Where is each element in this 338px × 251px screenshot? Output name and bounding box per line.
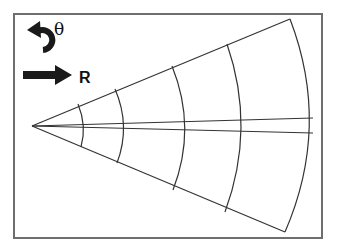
sector-top-edge bbox=[32, 19, 290, 126]
r-label: R bbox=[79, 69, 91, 86]
sector-bottom-edge bbox=[32, 126, 285, 232]
polar-sector-diagram: θ R bbox=[0, 0, 338, 251]
arc-1 bbox=[78, 104, 83, 147]
arc-3 bbox=[172, 66, 185, 190]
radial-arrow-icon bbox=[23, 65, 72, 85]
arc-2 bbox=[115, 89, 124, 163]
arc-5-outer bbox=[285, 19, 309, 232]
center-line-upper bbox=[32, 118, 313, 126]
theta-label: θ bbox=[54, 19, 64, 39]
center-line-lower bbox=[32, 126, 313, 133]
theta-rotation-icon bbox=[27, 21, 52, 50]
arc-4 bbox=[225, 44, 241, 212]
diagram-frame bbox=[14, 14, 322, 238]
